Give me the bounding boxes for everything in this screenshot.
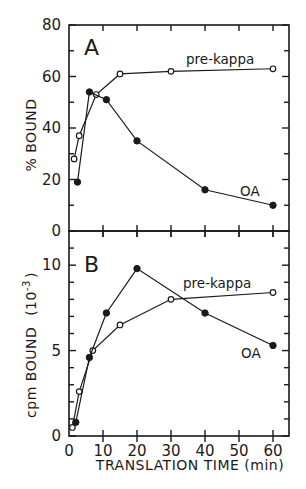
open-circle-marker [117, 71, 123, 77]
open-circle-marker [270, 290, 276, 296]
filled-circle-marker [73, 419, 79, 425]
filled-circle-marker [86, 89, 92, 95]
filled-circle-marker [134, 138, 140, 144]
panel-b: 05100102030405060 B pre-kappa OA cpm BOU… [21, 231, 289, 460]
panel-a: 020406080 A pre-kappa OA % BOUND [23, 16, 289, 240]
panel-b-y-axis-title: cpm BOUND (10-3) [21, 272, 39, 418]
panel-a-axes: 020406080 [42, 16, 289, 240]
filled-circle-marker [103, 310, 109, 316]
open-circle-marker [270, 66, 276, 72]
panel-b-series-label-prekappa: pre-kappa [183, 275, 251, 291]
open-circle-marker [168, 297, 174, 303]
two-panel-line-chart: 020406080 A pre-kappa OA % BOUND 0510010… [0, 0, 306, 489]
y-tick-label: 80 [42, 16, 61, 34]
panel-b-series-label-oa: OA [241, 345, 261, 361]
panel-a-y-axis-title: % BOUND [23, 98, 39, 171]
y-tick-label: 5 [51, 342, 61, 360]
panel-a-series-label-oa: OA [240, 183, 260, 199]
open-circle-marker [71, 156, 77, 162]
plot-frame [69, 231, 289, 436]
figure: 020406080 A pre-kappa OA % BOUND 0510010… [0, 0, 306, 489]
panel-a-label: A [84, 35, 99, 60]
panel-b-label: B [84, 252, 99, 277]
y-tick-label: 60 [42, 68, 61, 86]
open-circle-marker [76, 389, 82, 395]
filled-circle-marker [134, 265, 140, 271]
series-line-pre-kappa [74, 69, 273, 159]
open-circle-marker [168, 69, 174, 75]
open-circle-marker [76, 133, 82, 139]
filled-circle-marker [103, 96, 109, 102]
panel-b-ylabel-close: ) [23, 272, 39, 278]
plot-frame [69, 25, 289, 231]
y-tick-label: 40 [42, 119, 61, 137]
filled-circle-marker [86, 354, 92, 360]
panel-a-series-label-prekappa: pre-kappa [186, 51, 254, 67]
filled-circle-marker [270, 342, 276, 348]
y-tick-label: 10 [42, 256, 61, 274]
panel-b-ylabel-exp: -3 [21, 280, 32, 291]
y-tick-label: 0 [51, 427, 61, 445]
filled-circle-marker [74, 179, 80, 185]
open-circle-marker [117, 322, 123, 328]
filled-circle-marker [202, 310, 208, 316]
panel-b-ylabel-unit: (10 [23, 291, 39, 316]
y-tick-label: 20 [42, 171, 61, 189]
filled-circle-marker [270, 202, 276, 208]
filled-circle-marker [202, 187, 208, 193]
y-tick-label: 0 [51, 222, 61, 240]
x-axis-title: TRANSLATION TIME (min) [95, 457, 284, 473]
x-tick-label: 0 [64, 442, 74, 460]
panel-b-ylabel-main: cpm BOUND [23, 327, 39, 418]
svg-text:cpm BOUND (10-3): cpm BOUND (10-3) [21, 272, 39, 418]
